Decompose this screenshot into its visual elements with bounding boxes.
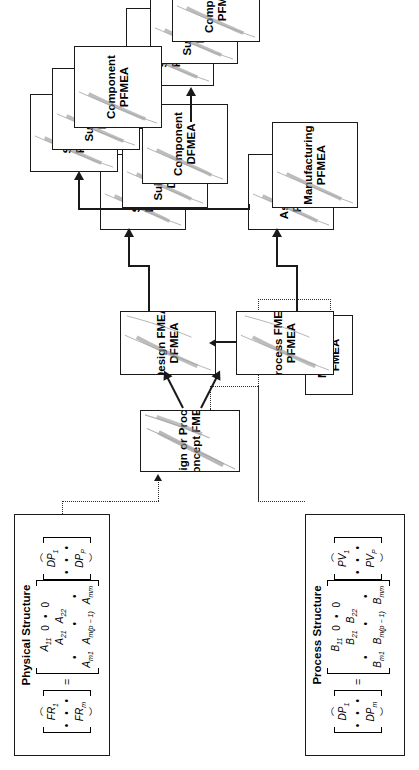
physical-structure-equation: ︵ FR1 • • • FRm ︶ = A11 0 • 0 A21	[36, 515, 99, 755]
manufacturing-to-upper-run	[190, 94, 192, 122]
fr-last-sub: m	[80, 702, 87, 708]
concept-line1: Design or Process	[177, 410, 190, 472]
process-structure-title: Process Structure	[311, 515, 323, 755]
component-pfmea-lower-line1: Component	[105, 55, 118, 119]
cell-bmp: B	[372, 638, 383, 645]
assembly-to-lower-riser	[78, 208, 250, 210]
process-to-assembly-run	[296, 265, 298, 311]
fr-first: FR	[46, 707, 57, 720]
rhs-brace-bottom: ︶	[91, 554, 98, 562]
dotted-machine-drop	[258, 299, 331, 300]
cell-amp: A	[81, 638, 92, 645]
design-to-dfmea-riser	[128, 265, 150, 267]
cell-bmm: B	[372, 598, 383, 605]
process-structure-panel: Process Structure ︵ DP1 • • • DPm ︶ = B1…	[305, 514, 405, 756]
design-to-dfmea-run2	[128, 235, 130, 267]
arrow-design-to-dfmea-stack	[124, 228, 134, 237]
node-manufacturing-pfmea[interactable]: Manufacturing PFMEA	[272, 122, 358, 208]
dotted-process-riser	[210, 386, 258, 387]
p-dp-dots: • • •	[352, 696, 365, 727]
pv-first: PV	[337, 554, 348, 567]
dotted-process-drop	[258, 501, 305, 502]
arrow-process-to-design	[209, 339, 216, 347]
process-to-assembly-riser	[276, 265, 298, 267]
dp-dots: • • •	[61, 543, 74, 574]
cell-zero2: 0	[40, 602, 53, 608]
dp-first: DP	[46, 553, 57, 567]
physical-matrix: A11 0 • 0 A21 A22 • • • Am1	[36, 580, 99, 674]
p-dp-first: DP	[337, 707, 348, 721]
cell-bm1: B	[372, 661, 383, 668]
cell-amm: A	[81, 598, 92, 605]
component-dfmea-line2: DFMEA	[185, 124, 198, 165]
fr-first-sub: 1	[52, 703, 59, 707]
design-fmea-line2: DFMEA	[168, 323, 181, 364]
fr-dots: • • •	[61, 696, 74, 727]
assembly-to-lower-run	[248, 204, 250, 210]
manufacturing-pfmea-line1: Manufacturing	[302, 125, 315, 204]
rotated-diagram-root: Physical Structure ︵ FR1 • • • FRm ︶ = A…	[0, 0, 419, 770]
cell-b22: B	[345, 617, 356, 624]
dotted-physical-riser2	[110, 501, 159, 502]
lhs-brace-top: ︵	[36, 708, 43, 716]
p-lhs-brace-bottom: ︶	[382, 708, 389, 716]
component-pfmea-upper-line1: Component	[203, 0, 216, 33]
cell-zero1: 0	[40, 625, 53, 631]
component-pfmea-upper-line2: PFMEA	[216, 0, 229, 21]
manufacturing-pfmea-line2: PFMEA	[315, 145, 328, 185]
dotted-physical-run	[62, 501, 63, 514]
node-component-pfmea-upper[interactable]: Component PFMEA	[172, 0, 260, 42]
p-dp-last: DP	[365, 708, 376, 722]
cell-a22: A	[54, 617, 65, 624]
fr-last: FR	[74, 708, 85, 721]
p-rhs-brace-top: ︵	[327, 554, 334, 562]
process-fmea-line2: PFMEA	[285, 323, 298, 363]
cell-bzero1: 0	[331, 625, 344, 631]
physical-rhs-vector: DP1 • • • DPP	[43, 537, 91, 580]
physical-structure-panel: Physical Structure ︵ FR1 • • • FRm ︶ = A…	[14, 514, 110, 756]
arrow-physical-to-concept	[154, 474, 162, 481]
cell-b21: B	[345, 638, 356, 645]
p-lhs-brace-top: ︵	[327, 708, 334, 716]
feedback-line-vertical	[216, 341, 236, 343]
component-pfmea-lower-line2: PFMEA	[118, 67, 131, 107]
process-equals: =	[352, 679, 364, 685]
cell-am1: A	[81, 661, 92, 668]
concept-line2: Concept FMEA	[190, 410, 203, 472]
lhs-brace-bottom: ︶	[91, 708, 98, 716]
node-concept-fmea[interactable]: Design or Process Concept FMEA	[140, 410, 240, 472]
cell-a21: A	[54, 638, 65, 645]
component-dfmea-line1: Component	[172, 112, 185, 176]
physical-structure-title: Physical Structure	[20, 515, 32, 755]
dp-last: DP	[74, 554, 85, 568]
arrow-manufacturing-to-upper-stack	[186, 87, 196, 96]
cell-a11: A	[39, 645, 50, 652]
pv-last: PV	[365, 554, 376, 567]
physical-lhs-vector: FR1 • • • FRm	[43, 690, 91, 733]
process-structure-equation: ︵ DP1 • • • DPm ︶ = B11 0 • 0 B21	[327, 515, 390, 755]
arrow-assembly-to-lower-stack	[74, 171, 84, 180]
design-to-dfmea-run	[148, 265, 150, 311]
arrow-process-to-pfmea-stack	[272, 228, 282, 237]
assembly-to-lower-top-run	[78, 178, 80, 210]
design-fmea-line1: Design FMEA	[155, 311, 168, 375]
process-rhs-vector: PV1 • • • PVP	[334, 537, 382, 580]
pv-dots: • • •	[352, 543, 365, 574]
node-process-fmea[interactable]: Process FMEA PFMEA	[236, 311, 334, 375]
dotted-physical-riser	[62, 501, 110, 502]
dotted-physical-to-concept	[158, 480, 159, 502]
process-to-assembly-run2	[276, 235, 278, 267]
process-lhs-vector: DP1 • • • DPm	[334, 690, 382, 733]
process-fmea-line1: Process FMEA	[272, 311, 285, 375]
diagram-canvas: Physical Structure ︵ FR1 • • • FRm ︶ = A…	[0, 0, 419, 770]
process-matrix: B11 0 • 0 B21 B22 • • • Bm1	[327, 580, 390, 674]
p-rhs-brace-bottom: ︶	[382, 554, 389, 562]
cell-bzero2: 0	[331, 602, 344, 608]
cell-b11: B	[330, 645, 341, 652]
node-component-pfmea-lower[interactable]: Component PFMEA	[74, 46, 162, 128]
physical-equals: =	[61, 679, 73, 685]
rhs-brace-top: ︵	[36, 554, 43, 562]
node-design-fmea[interactable]: Design FMEA DFMEA	[120, 311, 216, 375]
